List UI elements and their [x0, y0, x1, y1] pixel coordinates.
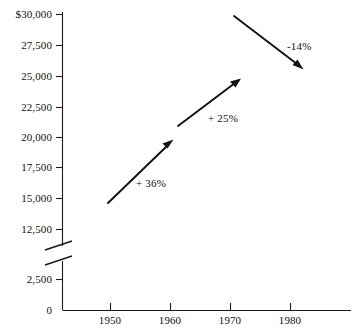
- x-tick-label: 1980: [279, 314, 302, 326]
- arrow-1960-1970: + 25%: [178, 79, 241, 127]
- y-tick-label: 12,500: [21, 223, 52, 235]
- y-tick-label: 0: [46, 304, 52, 316]
- y-tick-label: $30,000: [16, 8, 53, 20]
- axis-break-slash-upper: [45, 241, 72, 250]
- arrow-1950-1960: + 36%: [108, 140, 174, 204]
- x-tick-label: 1960: [159, 314, 182, 326]
- y-tick-label: 20,000: [21, 131, 52, 143]
- trend-chart: $30,000 27,500 25,000 22,500 20,000 17,5…: [0, 0, 359, 330]
- y-tick-label: 25,000: [21, 70, 52, 82]
- y-tick-label: 15,000: [21, 192, 52, 204]
- arrow-shaft: [108, 146, 167, 203]
- arrow-1970-1980: -14%: [234, 16, 312, 70]
- y-tick-label: 22,500: [21, 101, 52, 113]
- x-tick-label: 1950: [99, 314, 122, 326]
- arrow-head-icon: [163, 140, 174, 149]
- chart-container: $30,000 27,500 25,000 22,500 20,000 17,5…: [0, 0, 359, 330]
- y-tick-label: 27,500: [21, 39, 52, 51]
- y-tick-label: 2,500: [27, 273, 53, 285]
- arrow-change-label: + 25%: [208, 112, 238, 124]
- y-tick-label: 17,500: [21, 161, 52, 173]
- arrow-change-label: + 36%: [136, 177, 166, 189]
- arrow-change-label: -14%: [287, 40, 312, 52]
- x-tick-label: 1970: [219, 314, 242, 326]
- axis-break-slash-lower: [45, 256, 72, 265]
